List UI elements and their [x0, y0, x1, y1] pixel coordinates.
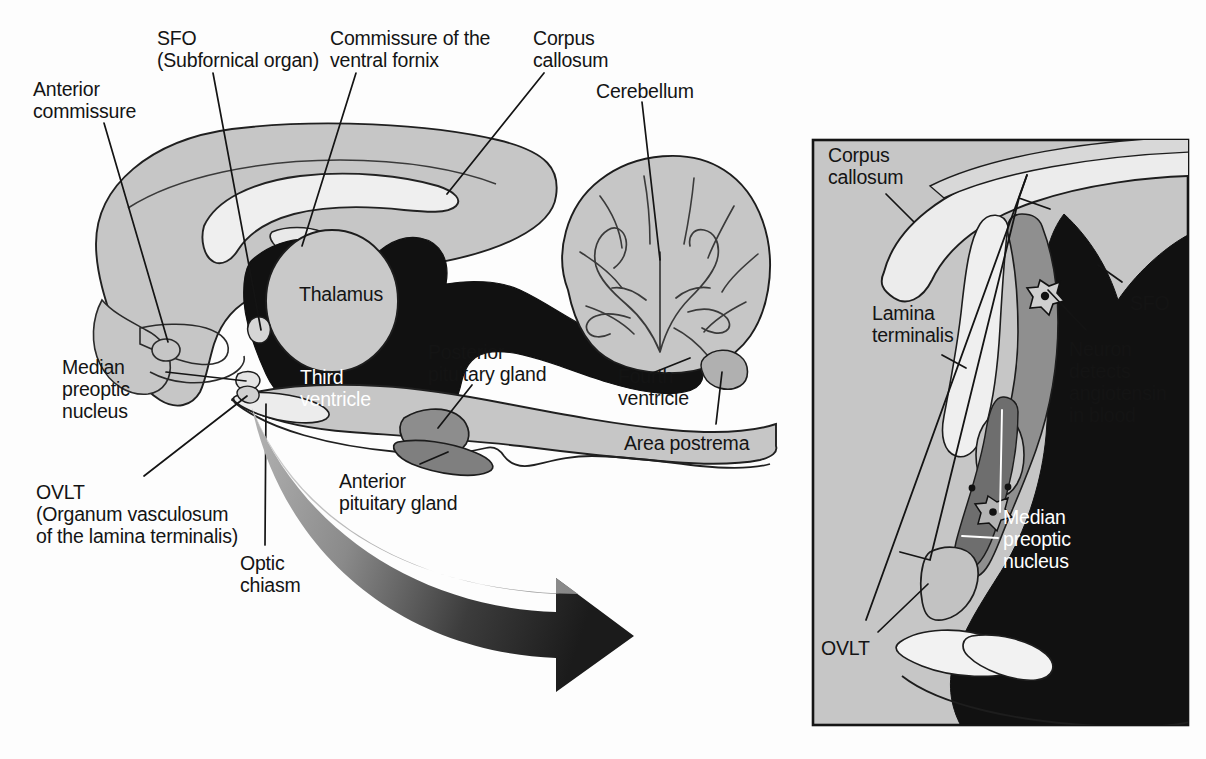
main-brain-section [93, 123, 776, 475]
area-postrema-shape [701, 350, 748, 389]
label-anterior-commissure: Anterior commissure [33, 78, 136, 122]
label-commissure-ventral-fornix: Commissure of the ventral fornix [330, 27, 490, 71]
label-inset-lamina-terminalis: Lamina terminalis [872, 302, 953, 346]
label-sfo: SFO (Subfornical organ) [157, 27, 319, 71]
label-ovlt: OVLT (Organum vasculosum of the lamina t… [36, 481, 238, 547]
leader-optic-chiasm [265, 404, 266, 545]
label-fourth-ventricle: Fourth ventricle [618, 365, 689, 409]
anterior-commissure-oval [152, 339, 180, 361]
label-optic-chiasm: Optic chiasm [240, 552, 301, 596]
neuron-dot-b [1005, 484, 1012, 491]
label-thalamus: Thalamus [299, 283, 383, 305]
label-inset-corpus-callosum: Corpus callosum [828, 144, 903, 188]
neuron-dot-a [969, 485, 976, 492]
label-area-postrema: Area postrema [624, 432, 749, 454]
diagram-artwork [0, 0, 1206, 759]
label-corpus-callosum: Corpus callosum [533, 27, 608, 71]
cerebellum-body [562, 156, 770, 373]
label-inset-ovlt: OVLT [821, 637, 870, 659]
label-posterior-pituitary-gland: Posterior pituitary gland [428, 341, 546, 385]
label-inset-neuron-detects: Neuron detects angiotensin in blood [1069, 338, 1167, 426]
label-inset-sfo: SFO [1130, 292, 1170, 314]
label-median-preoptic-nucleus: Median preoptic nucleus [62, 356, 130, 422]
label-anterior-pituitary-gland: Anterior pituitary gland [339, 470, 457, 514]
leader-ovlt [144, 396, 247, 476]
label-cerebellum: Cerebellum [596, 80, 694, 102]
figure-root: Anterior commissure SFO (Subfornical org… [0, 0, 1206, 759]
label-third-ventricle: Third ventricle [300, 366, 371, 410]
label-inset-median-preoptic-nucleus: Median preoptic nucleus [1003, 506, 1071, 572]
